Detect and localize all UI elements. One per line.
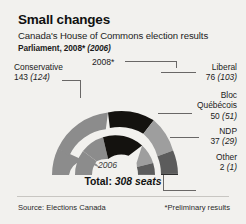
callout-ndp-prev: (29) bbox=[222, 136, 237, 146]
source-credit: Source: Elections Canada bbox=[18, 203, 106, 212]
total-value: 308 seats bbox=[115, 176, 162, 187]
arc-inner-liberal bbox=[103, 135, 142, 159]
callout-conservative-value: 143 (124) bbox=[14, 72, 63, 82]
leader-line-conservative bbox=[62, 80, 80, 98]
callout-bloc-name2: Québécois bbox=[197, 100, 237, 110]
total-seats: Total: 308 seats bbox=[0, 176, 246, 187]
callout-conservative-seats: 143 bbox=[14, 72, 28, 82]
callout-bloc-seats: 50 bbox=[210, 111, 219, 121]
ring-caption-2006: 2006 bbox=[98, 160, 117, 170]
leader-line-2008 bbox=[125, 61, 176, 68]
callout-other: Other 2 (1) bbox=[216, 152, 237, 173]
footnote: *Preliminary results bbox=[165, 203, 230, 212]
infographic-card: Small changes Canada's House of Commons … bbox=[0, 0, 246, 224]
callout-ndp-value: 37 (29) bbox=[210, 136, 237, 146]
callout-ndp-name: NDP bbox=[210, 126, 237, 136]
callout-other-value: 2 (1) bbox=[216, 162, 237, 172]
callout-other-name: Other bbox=[216, 152, 237, 162]
callout-liberal-name: Liberal bbox=[206, 62, 237, 72]
callout-bloc-name: Bloc bbox=[197, 90, 237, 100]
total-label: Total: bbox=[84, 176, 112, 187]
ring-caption-2008: 2008* bbox=[92, 57, 114, 67]
callout-liberal-prev: (103) bbox=[217, 72, 237, 82]
callout-liberal: Liberal 76 (103) bbox=[206, 62, 237, 83]
callout-other-seats: 2 bbox=[220, 162, 225, 172]
callout-conservative: Conservative 143 (124) bbox=[14, 62, 63, 83]
callout-bloc: Bloc Québécois 50 (51) bbox=[197, 90, 237, 121]
callout-ndp: NDP 37 (29) bbox=[210, 126, 237, 147]
callout-liberal-value: 76 (103) bbox=[206, 72, 237, 82]
callout-bloc-value: 50 (51) bbox=[197, 111, 237, 121]
callout-liberal-seats: 76 bbox=[206, 72, 215, 82]
callout-conservative-name: Conservative bbox=[14, 62, 63, 72]
callout-ndp-seats: 37 bbox=[210, 136, 219, 146]
callout-other-prev: (1) bbox=[227, 162, 237, 172]
callout-conservative-prev: (124) bbox=[30, 72, 50, 82]
callout-bloc-prev: (51) bbox=[222, 111, 237, 121]
footer-divider bbox=[17, 196, 229, 197]
